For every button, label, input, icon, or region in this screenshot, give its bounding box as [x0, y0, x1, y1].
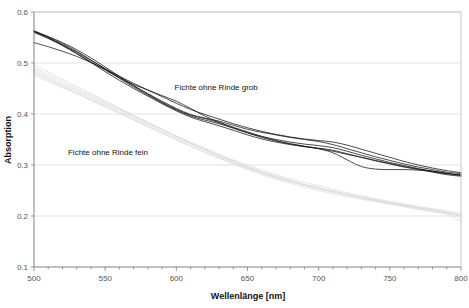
y-tick-label: 0.2 — [17, 212, 29, 221]
y-axis-title: Absorption — [3, 116, 13, 164]
absorption-spectrum-chart: 500550600650700750800 0.10.20.30.40.50.6… — [0, 0, 469, 308]
y-tick-label: 0.3 — [17, 161, 29, 170]
plot-background — [34, 12, 461, 267]
y-tick-label: 0.4 — [17, 110, 29, 119]
chart-container: 500550600650700750800 0.10.20.30.40.50.6… — [0, 0, 469, 308]
y-tick-label: 0.1 — [17, 263, 29, 272]
x-tick-label: 750 — [383, 274, 397, 283]
x-tick-label: 500 — [27, 274, 41, 283]
x-tick-label: 650 — [241, 274, 255, 283]
x-tick-label: 550 — [98, 274, 112, 283]
x-axis-title: Wellenlänge [nm] — [211, 291, 285, 301]
annotation-label-fein: Fichte ohne Rinde fein — [68, 148, 148, 157]
x-tick-label: 800 — [454, 274, 468, 283]
x-tick-label: 600 — [170, 274, 184, 283]
x-tick-label: 700 — [312, 274, 326, 283]
y-axis-tick-labels: 0.10.20.30.40.50.6 — [17, 8, 34, 272]
x-axis-ticks — [34, 267, 461, 271]
y-tick-label: 0.5 — [17, 59, 29, 68]
x-axis-tick-labels: 500550600650700750800 — [27, 274, 468, 283]
y-tick-label: 0.6 — [17, 8, 29, 17]
annotation-label-grob: Fichte ohne Rinde grob — [175, 83, 259, 92]
